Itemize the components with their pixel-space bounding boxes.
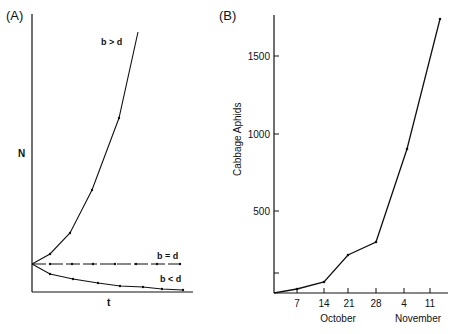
panel-a-tag: (A): [6, 8, 23, 23]
x-tick-oct-14: 14: [318, 298, 330, 309]
panel-b-x-ticks: [297, 288, 430, 293]
y-tick-1500: 1500: [248, 51, 271, 62]
x-tick-nov-11: 11: [425, 298, 436, 309]
label-b-gt-d: b > d: [101, 37, 122, 47]
x-tick-oct-21: 21: [343, 298, 355, 309]
x-group-november: November: [395, 313, 442, 324]
aphid-series-markers: [296, 18, 442, 291]
panel-b: (B) 1500 1000 500 Cabbage Aphids 7 14 21: [219, 8, 448, 324]
panel-b-tag: (B): [219, 8, 236, 23]
panel-a-x-label: t: [107, 297, 111, 308]
x-tick-oct-28: 28: [370, 298, 382, 309]
label-b-eq-d: b = d: [157, 251, 178, 261]
x-group-october: October: [320, 313, 356, 324]
x-tick-oct-7: 7: [294, 298, 300, 309]
y-tick-500: 500: [253, 206, 270, 217]
x-tick-nov-4: 4: [401, 298, 407, 309]
label-b-lt-d: b < d: [160, 274, 181, 284]
panel-a-y-label: N: [18, 148, 25, 159]
y-tick-1000: 1000: [248, 129, 271, 140]
series-b-gt-d-markers: [49, 117, 120, 255]
panel-b-y-ticks: [274, 56, 279, 273]
series-b-gt-d: [32, 32, 138, 264]
panel-b-y-label: Cabbage Aphids: [232, 103, 243, 176]
figure: (A) N t b > d b = d b < d: [0, 0, 457, 334]
panel-a: (A) N t b > d b = d b < d: [6, 8, 193, 308]
aphid-series-line: [274, 19, 440, 293]
